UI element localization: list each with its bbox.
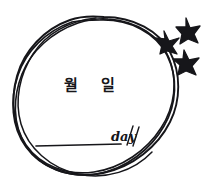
hand-drawn-circle-pass-4 (18, 18, 152, 176)
sketch-drawing (0, 0, 210, 190)
sketch-canvas: 월 일 day (0, 0, 210, 190)
label-day-script: day (111, 130, 136, 143)
label-month: 월 (64, 78, 78, 93)
horizontal-rule (36, 144, 121, 146)
hand-drawn-circle (13, 16, 178, 174)
star-icon (176, 18, 200, 44)
star-icon (155, 31, 179, 54)
label-day: 일 (101, 78, 115, 93)
